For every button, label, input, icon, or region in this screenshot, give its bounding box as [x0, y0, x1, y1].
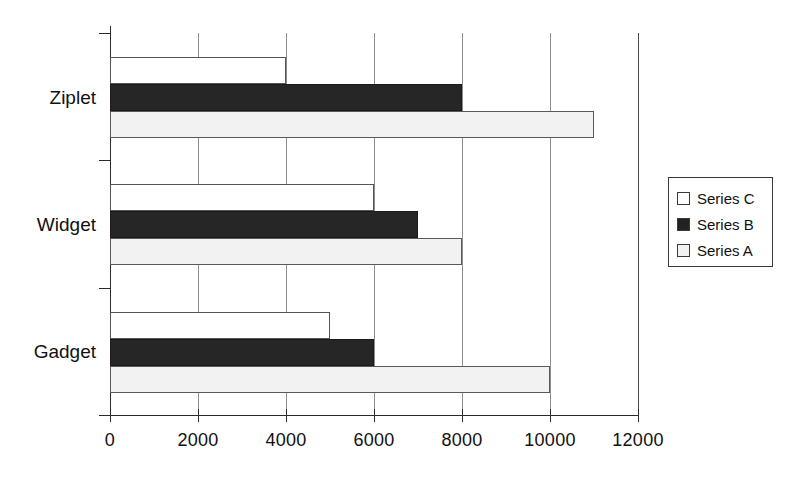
x-tick-4000	[286, 409, 287, 422]
bar-widget-series-c	[110, 184, 374, 211]
bar-gadget-series-b	[110, 339, 374, 366]
legend-item-series-b: Series B	[677, 211, 766, 237]
x-tick-label-0: 0	[105, 430, 115, 451]
x-tick-2000	[198, 409, 199, 422]
x-tick-label-4000: 4000	[265, 430, 306, 451]
x-tick-label-12000: 12000	[612, 430, 664, 451]
legend-swatch-series-a	[677, 244, 690, 257]
y-tick-0	[99, 33, 111, 34]
x-tick-10000	[550, 409, 551, 422]
legend-label-series-a: Series A	[697, 243, 753, 258]
y-tick-2	[99, 288, 111, 289]
chart-legend: Series C Series B Series A	[668, 177, 773, 267]
x-tick-label-2000: 2000	[177, 430, 218, 451]
bar-ziplet-series-c	[110, 57, 286, 84]
plot-area	[110, 33, 638, 415]
x-tick-12000	[638, 409, 639, 422]
y-tick-end	[99, 415, 111, 416]
bar-ziplet-series-a	[110, 111, 594, 138]
x-tick-label-10000: 10000	[524, 430, 576, 451]
y-category-label-widget: Widget	[0, 214, 96, 236]
gridline-12000	[638, 33, 639, 415]
legend-swatch-series-c	[677, 192, 690, 205]
x-tick-8000	[462, 409, 463, 422]
legend-item-series-a: Series A	[677, 237, 766, 263]
y-category-label-gadget: Gadget	[0, 341, 96, 363]
x-tick-label-8000: 8000	[441, 430, 482, 451]
legend-label-series-b: Series B	[697, 217, 754, 232]
bar-chart: 020004000600080001000012000ZipletWidgetG…	[0, 0, 803, 482]
bar-gadget-series-c	[110, 312, 330, 339]
bar-ziplet-series-b	[110, 84, 462, 111]
bar-gadget-series-a	[110, 366, 550, 393]
x-tick-6000	[374, 409, 375, 422]
gridline-10000	[550, 33, 551, 415]
y-category-label-ziplet: Ziplet	[0, 87, 96, 109]
gridline-8000	[462, 33, 463, 415]
legend-swatch-series-b	[677, 218, 690, 231]
legend-label-series-c: Series C	[697, 191, 755, 206]
x-tick-label-6000: 6000	[353, 430, 394, 451]
bar-widget-series-b	[110, 211, 418, 238]
legend-item-series-c: Series C	[677, 185, 766, 211]
y-tick-1	[99, 160, 111, 161]
bar-widget-series-a	[110, 238, 462, 265]
